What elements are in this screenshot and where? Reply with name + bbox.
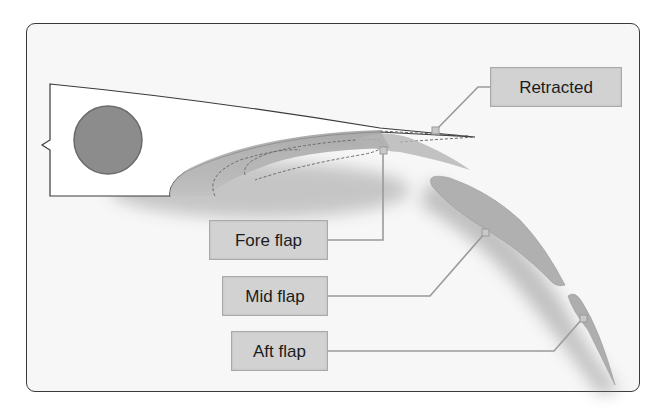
spar-circle	[74, 106, 142, 174]
aft-flap-label: Aft flap	[231, 331, 328, 371]
mid-flap	[430, 176, 565, 285]
fore-flap-label: Fore flap	[209, 220, 328, 260]
mid-flap-label: Mid flap	[222, 276, 328, 316]
retracted-label: Retracted	[490, 67, 622, 107]
shadow-area	[110, 162, 620, 395]
